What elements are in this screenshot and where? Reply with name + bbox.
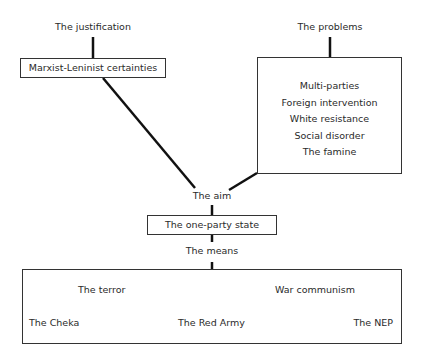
means-item-nep: The NEP [353, 317, 393, 329]
problem-item: The famine [258, 144, 401, 161]
problems-label: The problems [298, 21, 363, 33]
means-item-red-army: The Red Army [178, 317, 245, 329]
aim-box-text: The one-party state [148, 219, 276, 231]
means-item-terror: The terror [78, 284, 125, 296]
problem-item: Multi-parties [258, 78, 401, 95]
means-label: The means [186, 245, 239, 257]
problem-item: White resistance [258, 111, 401, 128]
aim-box: The one-party state [147, 215, 277, 235]
means-box: The terror War communism The Cheka The R… [22, 269, 402, 344]
problem-item: Foreign intervention [258, 95, 401, 112]
means-item-war-communism: War communism [275, 284, 355, 296]
aim-label: The aim [193, 190, 231, 202]
means-item-cheka: The Cheka [29, 317, 79, 329]
problems-list: Multi-parties Foreign intervention White… [258, 78, 401, 161]
problems-box: Multi-parties Foreign intervention White… [257, 57, 402, 174]
justification-box-text: Marxist-Leninist certainties [21, 62, 165, 74]
problem-item: Social disorder [258, 128, 401, 145]
justification-label: The justification [55, 21, 131, 33]
justification-box: Marxist-Leninist certainties [20, 58, 166, 78]
